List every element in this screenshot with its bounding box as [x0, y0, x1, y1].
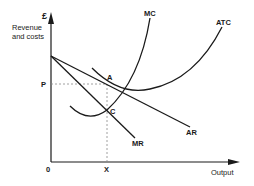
x-axis-label: Output: [211, 168, 234, 177]
mc-curve: [70, 18, 150, 116]
mr-label: MR: [132, 139, 144, 148]
axes: [48, 12, 240, 165]
price-label: P: [41, 80, 46, 89]
guide-lines: [51, 84, 107, 162]
quantity-label: X: [104, 165, 109, 174]
atc-label: ATC: [216, 18, 231, 27]
y-axis-label-line2: and costs: [12, 32, 44, 41]
origin-label: 0: [46, 165, 50, 174]
x-axis-arrow-icon: [228, 159, 240, 165]
mc-label: MC: [144, 9, 156, 18]
cost-revenue-diagram: £ Revenue and costs P 0 X Output MC ATC …: [0, 0, 254, 186]
ar-label: AR: [186, 128, 197, 137]
point-a-label: A: [107, 73, 113, 82]
y-axis-arrow-icon: [48, 12, 54, 24]
point-c-label: C: [110, 107, 116, 116]
y-axis-label-line1: Revenue: [12, 23, 42, 32]
curves: [51, 18, 222, 138]
currency-symbol: £: [42, 11, 47, 21]
ar-curve: [51, 56, 190, 127]
